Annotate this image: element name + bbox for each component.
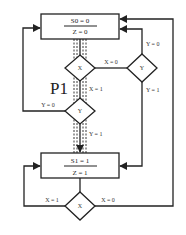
decision-y-mid-label: Y: [78, 108, 83, 114]
edge-label-x-bottom-false: X = 0: [101, 197, 115, 203]
edge-label-x-top-false: X = 0: [104, 59, 118, 65]
state-box-s0: S0 = 0 Z = 0: [41, 14, 119, 39]
decision-x-bottom-label: X: [78, 203, 83, 209]
edge-label-y-right-false: Y = 0: [146, 41, 160, 47]
decision-x-top-label: X: [78, 65, 83, 71]
edge-label-y-right-true: Y = 1: [146, 87, 160, 93]
edge-label-y-mid-false: Y = 0: [41, 102, 55, 108]
edge-label-y-mid-true: Y = 1: [89, 131, 103, 137]
s1-z-label: Z = 1: [72, 169, 88, 177]
state-box-s1: S1 = 1 Z = 1: [41, 153, 119, 178]
decision-x-bottom: X: [65, 192, 95, 220]
decision-y-right-label: Y: [140, 65, 145, 71]
decision-y-mid: Y: [65, 98, 95, 124]
edge-label-x-bottom-true: X = 1: [45, 197, 59, 203]
decision-x-top: X: [65, 55, 95, 81]
s0-z-label: Z = 0: [72, 28, 88, 36]
s1-output-label: S1 = 1: [71, 157, 90, 165]
path-label-p1: P1: [50, 79, 68, 98]
decision-y-right: Y: [127, 54, 157, 82]
s0-output-label: S0 = 0: [71, 17, 90, 25]
state-flow-diagram: S0 = 0 Z = 0 S1 = 1 Z = 1 X Y Y X X =: [0, 0, 186, 235]
edge-label-x-top-true: X = 1: [89, 86, 103, 92]
